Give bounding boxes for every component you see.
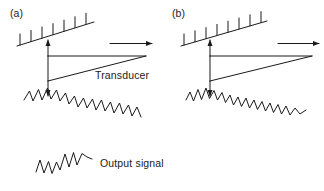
panel-label-a: (a) [10, 8, 23, 19]
transducer-label: Transducer [95, 70, 149, 81]
rake-b [181, 12, 267, 46]
rough-surface-a [24, 88, 141, 117]
panel-label-b: (b) [172, 8, 185, 19]
output-signal-label: Output signal [100, 158, 164, 169]
rake-a [17, 13, 94, 46]
panel-b-graphics [181, 12, 319, 115]
figure-root: (a) (b) Transducer Output signal [0, 0, 324, 191]
panel-a-graphics [17, 13, 152, 117]
rough-surface-b [186, 88, 306, 115]
transducer-wedge-b [210, 56, 312, 81]
output-signal-trace [36, 153, 92, 174]
